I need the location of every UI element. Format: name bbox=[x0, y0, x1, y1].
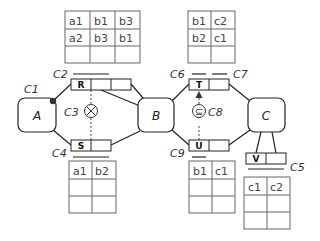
label-c9: C9 bbox=[170, 147, 185, 160]
orm-diagram: A B C R S T U V bbox=[0, 0, 320, 241]
label-c3: C3 bbox=[64, 106, 79, 119]
connector-c-v-2 bbox=[272, 132, 276, 153]
label-c5: C5 bbox=[290, 161, 305, 174]
connector-r-b-2 bbox=[131, 84, 143, 98]
table-cell: a1 bbox=[69, 15, 83, 28]
connector-a-s bbox=[53, 130, 71, 145]
entity-b-label: B bbox=[152, 109, 160, 123]
arrow-up-icon bbox=[196, 91, 203, 98]
table-cell: b2 bbox=[192, 32, 206, 45]
table-cell: c2 bbox=[214, 15, 227, 28]
table-cell: a2 bbox=[69, 32, 83, 45]
table-cell: b1 bbox=[94, 15, 108, 28]
table-cell: c1 bbox=[248, 181, 261, 194]
relation-s[interactable]: S bbox=[71, 140, 111, 151]
relation-t[interactable]: T bbox=[189, 79, 229, 90]
relation-v[interactable]: V bbox=[246, 153, 286, 164]
c3-exclusion-constraint[interactable] bbox=[85, 105, 98, 118]
connector-r-b-1 bbox=[101, 90, 140, 106]
relation-u[interactable]: U bbox=[189, 140, 229, 151]
c1-mandatory-dot[interactable] bbox=[50, 98, 56, 104]
entity-a[interactable]: A bbox=[18, 98, 56, 132]
table-cell: c2 bbox=[270, 181, 283, 194]
entity-a-label: A bbox=[32, 109, 41, 123]
table-cell: c1 bbox=[214, 32, 227, 45]
c8-subset-constraint[interactable]: ⊆ bbox=[193, 91, 206, 118]
table-cell: c1 bbox=[215, 165, 228, 178]
subset-symbol: ⊆ bbox=[195, 106, 203, 117]
table-cell: b3 bbox=[119, 15, 133, 28]
table-cell: b3 bbox=[94, 32, 108, 45]
connector-a-r bbox=[53, 84, 71, 101]
connector-u-c bbox=[229, 130, 250, 145]
table-cell: a1 bbox=[73, 165, 87, 178]
relation-r[interactable]: R bbox=[71, 79, 131, 90]
label-c7: C7 bbox=[233, 68, 248, 81]
connector-b-u bbox=[172, 130, 189, 145]
label-c2: C2 bbox=[53, 68, 68, 81]
label-c4: C4 bbox=[52, 147, 67, 160]
table-cell: b1 bbox=[193, 165, 207, 178]
entity-b[interactable]: B bbox=[138, 98, 174, 132]
connector-b-t bbox=[172, 84, 189, 101]
connector-t-c bbox=[229, 84, 250, 101]
relation-v-label: V bbox=[253, 154, 260, 164]
relation-s-label: S bbox=[78, 141, 84, 151]
table-cell: b1 bbox=[192, 15, 206, 28]
label-c6: C6 bbox=[170, 68, 185, 81]
relation-t-label: T bbox=[196, 80, 203, 90]
table-cell: b2 bbox=[95, 165, 109, 178]
relation-u-label: U bbox=[195, 141, 202, 151]
label-c1: C1 bbox=[24, 83, 39, 96]
entity-c[interactable]: C bbox=[248, 98, 285, 132]
entity-c-label: C bbox=[262, 109, 271, 123]
label-c8: C8 bbox=[208, 106, 223, 119]
table-cell: b1 bbox=[119, 32, 133, 45]
connector-c-v-1 bbox=[256, 132, 261, 153]
connector-s-b bbox=[111, 131, 140, 145]
relation-r-label: R bbox=[78, 80, 85, 90]
